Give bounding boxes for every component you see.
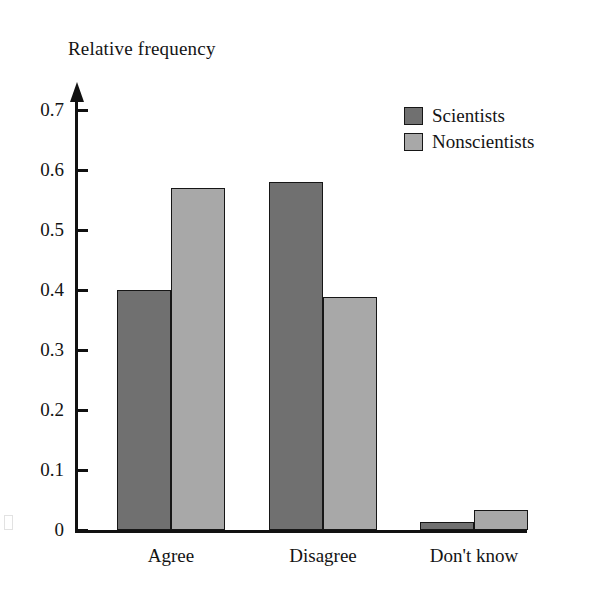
tick-mark bbox=[77, 289, 88, 292]
category-label-disagree: Disagree bbox=[289, 545, 357, 567]
chart-legend: Scientists Nonscientists bbox=[404, 103, 534, 155]
tick-mark bbox=[77, 229, 88, 232]
legend-swatch-scientists bbox=[404, 107, 423, 125]
y-axis-line bbox=[75, 90, 78, 533]
category-label-don-t-know: Don't know bbox=[430, 545, 518, 567]
legend-label-scientists: Scientists bbox=[432, 105, 505, 127]
x-axis-line bbox=[75, 530, 527, 533]
tick-label: 0.1 bbox=[40, 459, 64, 481]
y-axis-title: Relative frequency bbox=[68, 38, 216, 60]
tick-label: 0.3 bbox=[40, 339, 64, 361]
legend-label-nonscientists: Nonscientists bbox=[432, 131, 534, 153]
bar-disagree-scientists bbox=[269, 182, 323, 530]
tick-mark bbox=[77, 469, 88, 472]
tick-mark bbox=[77, 529, 88, 532]
tick-label: 0.4 bbox=[40, 279, 64, 301]
legend-swatch-nonscientists bbox=[404, 133, 423, 151]
legend-item-scientists: Scientists bbox=[404, 103, 534, 129]
bar-chart-figure: Relative frequency 00.10.20.30.40.50.60.… bbox=[0, 0, 593, 593]
bar-don-t-know-scientists bbox=[420, 522, 474, 530]
tick-mark bbox=[77, 169, 88, 172]
bar-don-t-know-nonscientists bbox=[474, 510, 528, 530]
category-label-agree: Agree bbox=[148, 545, 194, 567]
tick-mark bbox=[77, 349, 88, 352]
tick-mark bbox=[77, 409, 88, 412]
legend-item-nonscientists: Nonscientists bbox=[404, 129, 534, 155]
tick-label: 0.7 bbox=[40, 99, 64, 121]
bar-agree-scientists bbox=[117, 290, 171, 530]
tick-mark bbox=[77, 109, 88, 112]
bar-disagree-nonscientists bbox=[323, 297, 377, 530]
y-axis-arrow-icon bbox=[70, 82, 84, 102]
tick-label: 0.2 bbox=[40, 399, 64, 421]
tick-label: 0.5 bbox=[40, 219, 64, 241]
scan-artifact bbox=[4, 515, 13, 530]
tick-label: 0.6 bbox=[40, 159, 64, 181]
tick-label: 0 bbox=[55, 519, 65, 541]
bar-agree-nonscientists bbox=[171, 188, 225, 530]
